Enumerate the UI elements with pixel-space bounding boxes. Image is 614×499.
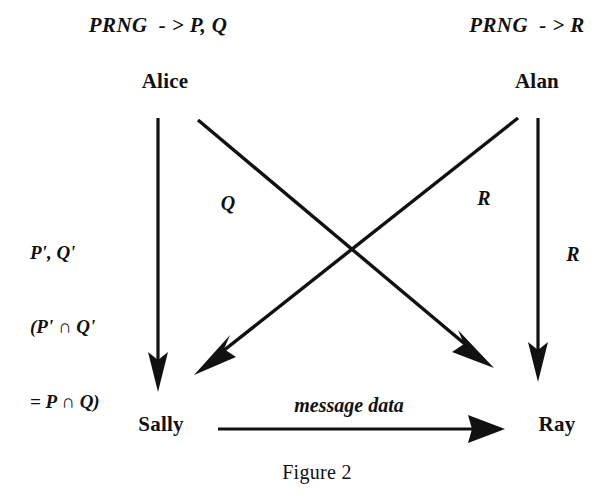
edge-alice-to-ray	[198, 120, 494, 368]
label-diagonal-alice-to-ray: Q	[221, 192, 235, 214]
label-vertical-alan-to-ray: R	[566, 243, 579, 265]
label-diagonal-alan-to-sally: R	[477, 187, 490, 209]
label-message-data: message data	[294, 394, 403, 416]
figure-diagram: PRNG - > P, Q PRNG - > R Alice Alan Sall…	[0, 0, 614, 499]
node-ray: Ray	[539, 413, 576, 437]
node-alice: Alice	[142, 70, 188, 94]
annotation-line-1: P', Q'	[30, 241, 100, 266]
edge-sally-to-ray	[218, 415, 505, 443]
figure-caption: Figure 2	[282, 461, 352, 483]
edge-alice-to-sally	[148, 118, 168, 392]
annotation-alice-to-sally: P', Q' (P' ∩ Q' = P ∩ Q)	[30, 192, 100, 464]
edge-alan-to-ray	[528, 118, 548, 382]
node-alan: Alan	[515, 70, 559, 94]
node-sally: Sally	[138, 413, 183, 437]
prng-header-left: PRNG - > P, Q	[89, 14, 228, 38]
annotation-line-2: (P' ∩ Q'	[30, 315, 100, 340]
annotation-line-3: = P ∩ Q)	[30, 390, 100, 415]
edge-alan-to-sally	[194, 118, 518, 375]
prng-header-right: PRNG - > R	[469, 14, 585, 38]
